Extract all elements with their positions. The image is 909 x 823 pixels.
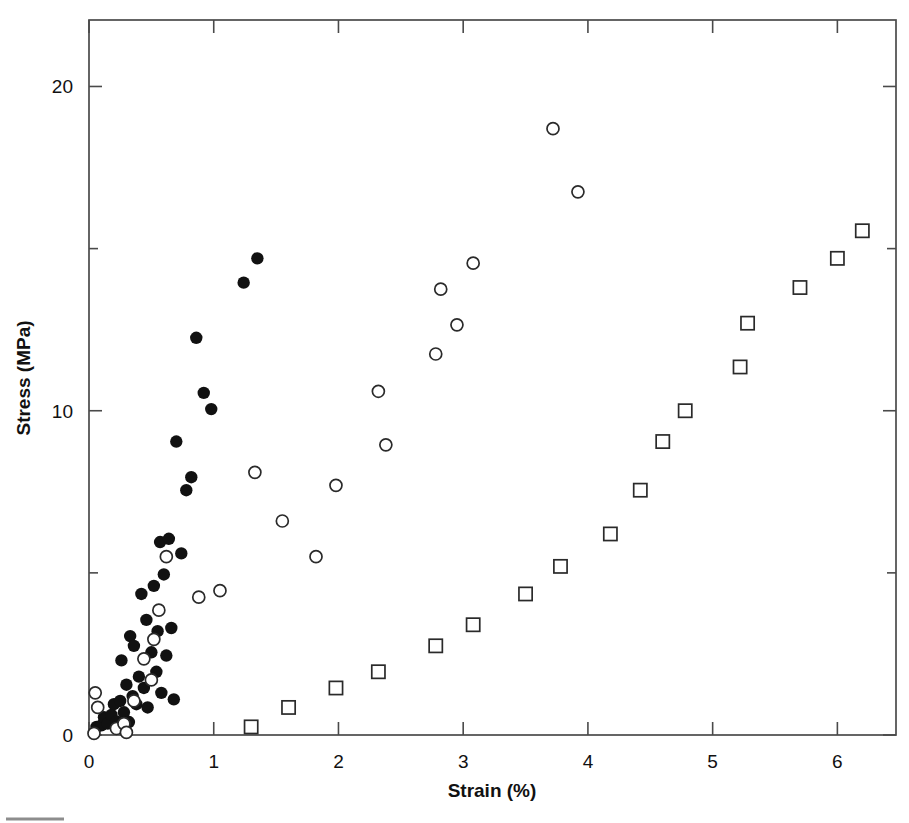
data-point-filled-circle	[160, 649, 172, 661]
data-point-open-circle	[128, 695, 140, 707]
data-point-filled-circle	[163, 533, 175, 545]
y-tick-label: 20	[52, 76, 73, 97]
data-point-open-square	[329, 681, 342, 694]
data-point-open-circle	[330, 479, 342, 491]
data-point-open-square	[429, 639, 442, 652]
axis-ticks	[89, 20, 896, 735]
data-point-filled-circle	[168, 693, 180, 705]
data-point-open-circle	[89, 687, 101, 699]
x-tick-labels: 0123456	[84, 751, 843, 772]
data-point-open-circle	[214, 585, 226, 597]
data-point-filled-circle	[175, 547, 187, 559]
data-point-open-circle	[372, 385, 384, 397]
data-point-filled-circle	[237, 276, 249, 288]
data-point-filled-circle	[165, 622, 177, 634]
data-point-open-square	[679, 404, 692, 417]
x-tick-label: 5	[707, 751, 718, 772]
data-point-open-circle	[435, 283, 447, 295]
data-point-open-square	[604, 527, 617, 540]
data-point-open-square	[831, 252, 844, 265]
data-point-open-circle	[120, 726, 132, 738]
x-tick-label: 6	[832, 751, 843, 772]
data-point-open-circle	[467, 257, 479, 269]
data-point-filled-circle	[141, 701, 153, 713]
data-point-filled-circle	[155, 687, 167, 699]
y-tick-label: 0	[62, 725, 73, 746]
data-point-open-square	[519, 587, 532, 600]
data-point-filled-circle	[205, 403, 217, 415]
data-point-open-square	[733, 360, 746, 373]
data-point-open-circle	[148, 633, 160, 645]
data-point-open-square	[793, 281, 806, 294]
data-point-filled-circle	[140, 614, 152, 626]
data-point-filled-circle	[251, 252, 263, 264]
data-point-open-square	[372, 665, 385, 678]
data-point-open-square	[856, 224, 869, 237]
x-tick-label: 4	[583, 751, 594, 772]
data-point-open-square	[245, 720, 258, 733]
data-point-open-circle	[138, 653, 150, 665]
data-point-open-square	[467, 618, 480, 631]
data-point-filled-circle	[148, 580, 160, 592]
y-axis-title: Stress (MPa)	[13, 320, 34, 435]
data-point-open-circle	[310, 551, 322, 563]
x-tick-label: 0	[84, 751, 95, 772]
data-point-open-circle	[451, 319, 463, 331]
data-point-filled-circle	[115, 654, 127, 666]
data-point-filled-circle	[158, 568, 170, 580]
data-point-open-circle	[153, 604, 165, 616]
data-point-filled-circle	[190, 332, 202, 344]
data-point-open-square	[741, 317, 754, 330]
series-open-circles	[88, 123, 584, 740]
data-point-filled-circle	[198, 387, 210, 399]
series-open-squares	[245, 224, 869, 733]
data-point-filled-circle	[135, 588, 147, 600]
data-point-open-circle	[430, 348, 442, 360]
data-point-open-square	[656, 435, 669, 448]
scatter-plot-figure: 0123456 01020 Strain (%) Stress (MPa)	[0, 0, 909, 823]
data-point-open-square	[634, 484, 647, 497]
series-filled-circles	[90, 252, 263, 733]
data-point-open-circle	[160, 551, 172, 563]
data-point-filled-circle	[180, 484, 192, 496]
data-point-filled-circle	[133, 670, 145, 682]
data-point-open-circle	[88, 727, 100, 739]
x-tick-label: 2	[333, 751, 344, 772]
data-point-filled-circle	[120, 679, 132, 691]
data-point-filled-circle	[170, 435, 182, 447]
data-point-filled-circle	[185, 471, 197, 483]
x-axis-title: Strain (%)	[448, 780, 537, 801]
data-point-open-square	[282, 701, 295, 714]
data-point-filled-circle	[114, 695, 126, 707]
data-point-open-circle	[572, 186, 584, 198]
data-point-open-circle	[547, 123, 559, 135]
plot-frame	[89, 20, 896, 735]
data-point-open-circle	[193, 591, 205, 603]
stress-strain-scatter-chart: 0123456 01020 Strain (%) Stress (MPa)	[0, 0, 909, 823]
data-point-open-circle	[92, 701, 104, 713]
data-point-filled-circle	[128, 640, 140, 652]
data-point-open-square	[554, 560, 567, 573]
y-tick-label: 10	[52, 401, 73, 422]
x-tick-label: 3	[458, 751, 469, 772]
data-point-open-circle	[276, 515, 288, 527]
data-point-open-circle	[380, 439, 392, 451]
x-tick-label: 1	[208, 751, 219, 772]
y-tick-labels: 01020	[52, 76, 73, 746]
data-point-open-circle	[145, 674, 157, 686]
data-point-open-circle	[249, 466, 261, 478]
